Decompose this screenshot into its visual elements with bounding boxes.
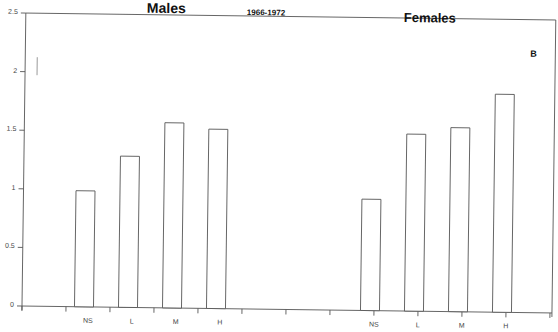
bar-males-ns	[74, 191, 95, 307]
bar-females-m	[448, 128, 469, 312]
y-tick-label: 0.5	[0, 242, 15, 249]
x-tick-label: L	[403, 321, 433, 328]
plot-top-border	[26, 13, 556, 20]
bar-chart	[0, 0, 558, 332]
x-tick-label: H	[205, 318, 235, 325]
period-title: 1966-1972	[247, 8, 285, 18]
bar-males-l	[118, 156, 139, 307]
bar-males-m	[162, 123, 183, 308]
x-tick-label: L	[117, 317, 147, 324]
y-axis-line	[22, 13, 26, 310]
x-axis-line	[22, 306, 552, 313]
y-tick-label: 2.5	[0, 8, 18, 15]
bar-females-h	[492, 94, 514, 312]
chart-stage: Males 1966-1972 Females B 00.511.522.5 N…	[0, 0, 558, 332]
bar-females-l	[404, 134, 425, 311]
x-tick-label: H	[491, 322, 521, 329]
plot-right-border	[552, 20, 556, 317]
y-tick-label: 1.5	[0, 125, 16, 132]
panel-label: B	[530, 49, 537, 59]
y-tick-label: 2	[0, 66, 17, 73]
x-tick-label: NS	[359, 320, 389, 327]
x-tick-label: M	[161, 318, 191, 325]
y-tick-label: 1	[0, 183, 16, 190]
x-tick-label: NS	[73, 317, 103, 324]
bar-females-ns	[360, 199, 380, 311]
females-title: Females	[404, 10, 456, 26]
males-title: Males	[147, 0, 186, 16]
y-tick-label: 0	[0, 301, 14, 308]
x-tick-label: M	[447, 322, 477, 329]
bar-males-h	[206, 129, 227, 309]
